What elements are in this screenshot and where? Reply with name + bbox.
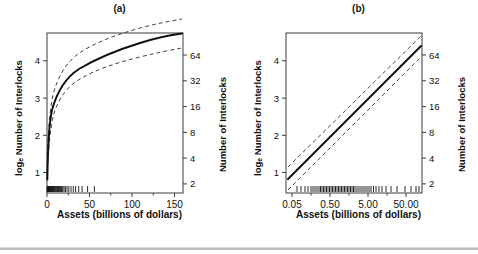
right-tick-4: 4 <box>190 153 195 164</box>
right-tick-2: 2 <box>190 178 195 189</box>
panel-a-ylabel-left: loge Number of Interlocks <box>13 60 24 176</box>
right-axis-tick-labels: 2 4 8 16 32 64 <box>190 50 201 190</box>
left-axis-tick-labels: 1 2 3 4 <box>274 55 279 178</box>
figure-bottom-rule <box>0 248 478 250</box>
ylabel-left-main: Number of Interlocks <box>13 60 24 155</box>
right-tick-8: 8 <box>190 127 195 138</box>
panel-a-ylabel-right: Number of Interlocks <box>217 77 228 172</box>
left-axis-ticks <box>43 61 47 173</box>
right-axis-ticks <box>183 55 187 184</box>
panel-a: (a) 1 2 3 4 <box>0 0 239 244</box>
right-tick-64: 64 <box>429 50 440 61</box>
right-tick-16: 16 <box>429 101 440 112</box>
right-tick-64: 64 <box>190 50 201 61</box>
ylabel-left-subscript: e <box>17 158 24 162</box>
x-axis-ticks <box>47 193 175 197</box>
right-tick-8: 8 <box>429 127 434 138</box>
ylabel-left-prefix: log <box>252 162 263 176</box>
right-tick-4: 4 <box>429 153 434 164</box>
panel-a-xlabel: Assets (billions of dollars) <box>0 209 239 220</box>
panel-b-ylabel-right: Number of Interlocks <box>456 77 467 172</box>
panel-b-xlabel: Assets (billions of dollars) <box>239 209 478 220</box>
right-axis-ticks <box>422 55 426 184</box>
right-tick-16: 16 <box>190 101 201 112</box>
ylabel-left-main: Number of Interlocks <box>252 60 263 155</box>
right-axis-tick-labels: 2 4 8 16 32 64 <box>429 50 440 190</box>
ylabel-left-subscript: e <box>256 158 263 162</box>
right-tick-32: 32 <box>190 75 201 86</box>
left-tick-3: 3 <box>35 93 40 104</box>
left-tick-3: 3 <box>274 93 279 104</box>
right-tick-32: 32 <box>429 75 440 86</box>
ylabel-left-prefix: log <box>13 162 24 176</box>
right-tick-2: 2 <box>429 178 434 189</box>
left-axis-tick-labels: 1 2 3 4 <box>35 55 40 178</box>
plot-frame <box>47 33 183 193</box>
panel-a-plot: 1 2 3 4 2 4 8 16 32 64 <box>0 0 239 244</box>
left-tick-4: 4 <box>274 55 279 66</box>
left-tick-2: 2 <box>35 130 40 141</box>
left-tick-1: 1 <box>35 167 40 178</box>
x-axis-ticks <box>292 193 406 197</box>
rug-plot <box>47 186 94 192</box>
figure-container: (a) 1 2 3 4 <box>0 0 478 254</box>
left-tick-4: 4 <box>35 55 40 66</box>
panel-b-ylabel-left: loge Number of Interlocks <box>252 60 263 176</box>
panel-b: (b) 1 2 3 4 <box>239 0 478 244</box>
panel-b-plot: 1 2 3 4 2 4 8 16 32 64 <box>239 0 478 244</box>
left-axis-ticks <box>282 61 286 173</box>
left-tick-1: 1 <box>274 167 279 178</box>
left-tick-2: 2 <box>274 130 279 141</box>
